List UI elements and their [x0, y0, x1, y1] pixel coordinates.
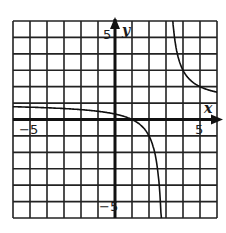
- y-axis-arrow-icon: [110, 17, 120, 29]
- y-tick-neg5: −5: [99, 199, 118, 214]
- y-tick-5: 5: [103, 27, 111, 42]
- x-tick-neg5: −5: [19, 122, 38, 137]
- x-axis-label: x: [203, 100, 213, 116]
- y-axis-label: y: [121, 22, 131, 38]
- axes: [13, 17, 223, 218]
- function-graph: y x 5 −5 −5 5: [0, 0, 226, 233]
- x-tick-5: 5: [195, 122, 203, 137]
- curve-right-branch: [173, 21, 217, 92]
